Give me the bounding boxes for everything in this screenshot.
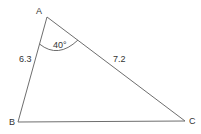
vertex-label-b: B [9,117,15,127]
vertex-label-c: C [189,116,196,126]
side-label-ab: 6.3 [19,54,32,64]
triangle-diagram: A B C 6.3 7.2 40° [0,0,201,134]
side-ac [47,17,185,121]
angle-label-a: 40° [53,40,67,50]
side-bc [18,121,185,122]
side-label-ac: 7.2 [113,54,126,64]
vertex-label-a: A [36,6,42,16]
side-ab [18,17,47,122]
